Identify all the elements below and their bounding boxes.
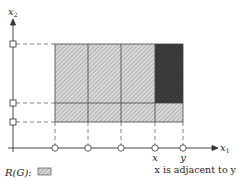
diagram-canvas: x2 x1 x y x is adjacent to y R(G): xyxy=(0,0,238,180)
caption: x is adjacent to y xyxy=(155,164,237,175)
x-axis-label: x1 xyxy=(220,142,229,154)
point-x-label: x xyxy=(152,152,158,163)
dark-cell xyxy=(155,44,183,103)
point-y-label: y xyxy=(179,152,186,163)
legend-label: R(G): xyxy=(4,167,32,178)
legend-swatch xyxy=(38,168,51,175)
y-axis-label: x2 xyxy=(8,6,18,18)
